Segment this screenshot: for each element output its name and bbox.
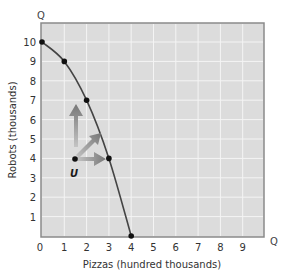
- x-tick-label: 5: [150, 242, 156, 253]
- x-tick-label: 2: [83, 242, 89, 253]
- x-tick-label: 6: [173, 242, 179, 253]
- x-axis-title: Pizzas (hundred thousands): [83, 259, 221, 270]
- y-axis-end-label: Q: [37, 10, 45, 21]
- y-tick-labels: 12345678910: [23, 37, 36, 223]
- x-tick-label: 1: [61, 242, 67, 253]
- x-tick-label: 8: [217, 242, 223, 253]
- y-tick-label: 4: [30, 153, 36, 164]
- y-tick-label: 9: [30, 56, 36, 67]
- point-u-label: U: [70, 168, 78, 179]
- x-tick-labels: 0123456789: [37, 242, 246, 253]
- ppf-point: [106, 156, 112, 162]
- x-tick-label: 0: [37, 242, 43, 253]
- ppf-point: [128, 233, 134, 239]
- ppf-chart: U 0123456789 12345678910 Q Q Pizzas (hun…: [0, 0, 288, 279]
- point-u: [72, 156, 78, 162]
- y-tick-label: 3: [30, 173, 36, 184]
- x-tick-label: 7: [195, 242, 201, 253]
- y-tick-label: 10: [23, 37, 36, 48]
- y-tick-label: 7: [30, 95, 36, 106]
- ppf-point: [39, 39, 45, 45]
- y-tick-label: 6: [30, 115, 36, 126]
- y-axis-title: Robots (thousands): [7, 81, 18, 178]
- y-tick-label: 2: [30, 192, 36, 203]
- ppf-point: [62, 59, 68, 65]
- x-axis-end-label: Q: [270, 236, 278, 247]
- x-tick-label: 9: [240, 242, 246, 253]
- x-tick-label: 3: [106, 242, 112, 253]
- y-tick-label: 5: [30, 134, 36, 145]
- x-tick-label: 4: [128, 242, 134, 253]
- ppf-point: [84, 97, 90, 103]
- y-tick-label: 1: [30, 212, 36, 223]
- y-tick-label: 8: [30, 76, 36, 87]
